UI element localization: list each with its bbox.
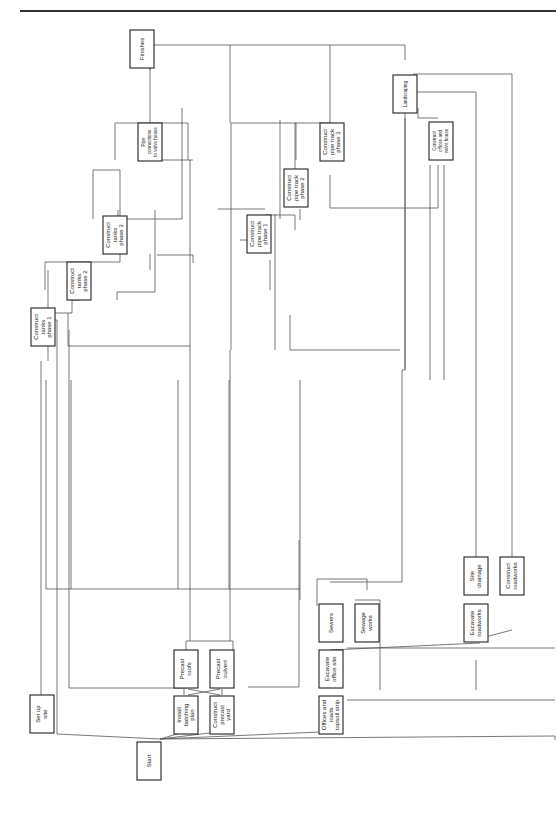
svg-text:roads: roads: [328, 707, 334, 722]
svg-text:offices and: offices and: [438, 129, 443, 152]
svg-text:pipe track: pipe track: [329, 128, 335, 155]
node-construct-precast-yard: Construct precast yard: [210, 696, 234, 734]
svg-text:phase 1: phase 1: [262, 223, 268, 245]
node-construct-tanks-phase-1: Construct tanks phase 1: [31, 308, 55, 346]
svg-text:office site: office site: [331, 656, 337, 682]
svg-text:pipe track: pipe track: [256, 220, 262, 247]
node-set-up-site: Set up site: [30, 695, 54, 733]
svg-text:Sewage: Sewage: [360, 611, 366, 633]
svg-text:Precast: Precast: [215, 658, 221, 679]
svg-text:roadworks: roadworks: [476, 609, 482, 637]
svg-text:Construct: Construct: [249, 221, 255, 247]
svg-text:works: works: [367, 615, 373, 632]
svg-text:Construct: Construct: [212, 702, 218, 728]
precedence-network-diagram: Start Set up site Install batching plan …: [0, 0, 556, 813]
svg-text:drainage: drainage: [476, 564, 482, 588]
svg-text:Site: Site: [469, 570, 475, 581]
svg-text:phase 1: phase 1: [46, 316, 52, 338]
svg-text:precast: precast: [219, 705, 225, 725]
svg-text:Set up: Set up: [35, 705, 41, 723]
node-construct-roadworks: Construct roadworks: [500, 557, 524, 595]
node-construct-pipe-track-phase-1: Construct pipe track phase 1: [247, 215, 271, 253]
svg-text:batching: batching: [183, 704, 189, 727]
node-sewers: Sewers: [319, 604, 343, 642]
svg-text:Construct: Construct: [69, 268, 75, 294]
svg-text:to valve house: to valve house: [153, 127, 158, 157]
node-site-drainage: Site drainage: [464, 557, 488, 595]
node-finishes: Finishes: [130, 30, 154, 68]
svg-text:phase 3: phase 3: [335, 131, 341, 153]
node-pipe-connections-valve-house: Pipe connections to valve house: [138, 123, 162, 161]
svg-text:Construct: Construct: [105, 222, 111, 248]
svg-text:Start: Start: [146, 754, 152, 767]
svg-text:roofs: roofs: [186, 662, 192, 675]
svg-text:Construct: Construct: [505, 563, 511, 589]
svg-text:culvert: culvert: [222, 660, 228, 678]
svg-text:phase 3: phase 3: [118, 224, 124, 246]
svg-text:Construct: Construct: [322, 129, 328, 155]
svg-text:Construct: Construct: [432, 130, 437, 150]
svg-text:Sewers: Sewers: [328, 613, 334, 633]
svg-text:Construct: Construct: [33, 314, 39, 340]
node-sewage-works: Sewage works: [355, 604, 379, 642]
svg-text:Excavate: Excavate: [324, 656, 330, 681]
svg-text:topsoil strip: topsoil strip: [334, 699, 340, 730]
node-construct-offices-valve-house: Construct offices and valve house: [429, 122, 453, 160]
svg-text:connections: connections: [147, 129, 152, 154]
svg-text:valve house: valve house: [444, 128, 449, 153]
svg-text:pipe track: pipe track: [293, 174, 299, 201]
node-landscaping: Landscaping: [393, 75, 417, 113]
node-precast-culvert: Precast culvert: [210, 650, 234, 688]
svg-text:phase 2: phase 2: [82, 270, 88, 292]
node-construct-tanks-phase-3: Construct tanks phase 3: [103, 216, 127, 254]
svg-text:Construct: Construct: [286, 175, 292, 201]
node-excavate-office-site: Excavate office site: [319, 650, 343, 688]
svg-text:site: site: [42, 709, 48, 719]
svg-text:Precast: Precast: [179, 658, 185, 679]
svg-text:Offices and: Offices and: [321, 700, 327, 730]
svg-text:phase 2: phase 2: [299, 177, 305, 199]
node-construct-pipe-track-phase-3: Construct pipe track phase 3: [320, 123, 344, 161]
node-start: Start: [137, 742, 161, 780]
svg-text:plan: plan: [189, 709, 195, 720]
svg-text:roadworks: roadworks: [512, 562, 518, 590]
svg-text:Pipe: Pipe: [141, 137, 146, 147]
svg-text:Excavate: Excavate: [469, 610, 475, 635]
svg-text:yard: yard: [225, 709, 231, 721]
svg-text:Install: Install: [176, 707, 182, 723]
node-construct-pipe-track-phase-2: Construct pipe track phase 2: [284, 169, 308, 207]
svg-text:tanks: tanks: [112, 228, 118, 242]
node-offices-roads-topsoil: Offices and roads topsoil strip: [319, 696, 343, 734]
svg-text:Finishes: Finishes: [139, 38, 145, 60]
svg-text:Landscaping: Landscaping: [403, 81, 408, 107]
node-install-batching-plant: Install batching plan: [174, 696, 198, 734]
svg-text:tanks: tanks: [40, 320, 46, 334]
node-construct-tanks-phase-2: Construct tanks phase 2: [67, 262, 91, 300]
node-excavate-roadworks: Excavate roadworks: [464, 604, 488, 642]
svg-text:tanks: tanks: [76, 274, 82, 288]
node-precast-roofs: Precast roofs: [174, 650, 198, 688]
